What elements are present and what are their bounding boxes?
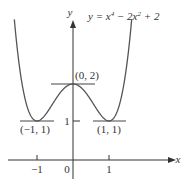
x-tick-label-neg1: −1 [31, 163, 43, 175]
graph: y x y = x4 − 2x2 + 2 (0, 2) (−1, 1) (1, … [0, 0, 182, 179]
y-axis-label: y [67, 6, 73, 18]
equation-label: y = x4 − 2x2 + 2 [87, 10, 160, 22]
y-tick-label-1: 1 [64, 115, 70, 127]
y-axis-arrow-icon [70, 20, 76, 28]
point-label-right-min: (1, 1) [97, 123, 121, 136]
x-axis-label: x [175, 153, 181, 165]
x-tick-label-0: 0 [64, 163, 70, 175]
point-label-max: (0, 2) [75, 69, 99, 82]
x-tick-label-1: 1 [106, 163, 112, 175]
point-label-left-min: (−1, 1) [20, 123, 50, 136]
